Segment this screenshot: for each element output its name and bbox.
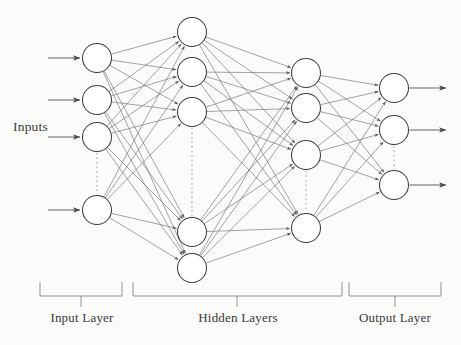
connection-edge: [109, 41, 179, 91]
connection-edge: [202, 43, 295, 143]
connection-edge: [201, 121, 297, 256]
input-layer-label: Input Layer: [40, 310, 124, 326]
connection-edge: [318, 98, 381, 146]
connection-edge: [206, 117, 291, 149]
connection-edge: [203, 166, 295, 257]
connection-edge: [206, 77, 290, 104]
neuron-node-hidden-1-2: [178, 58, 207, 87]
hidden-layers-label: Hidden Layers: [133, 310, 343, 326]
bracket-hidden-layers: [133, 282, 342, 296]
neuron-node-input-3: [83, 123, 112, 152]
neuron-node-input-2: [83, 86, 112, 115]
connection-edge: [108, 148, 181, 221]
connection-edge: [201, 86, 297, 220]
connection-edge: [104, 71, 184, 218]
connection-edge: [206, 233, 291, 263]
neuron-node-hidden-1-4: [178, 218, 207, 247]
connection-edge: [110, 218, 179, 260]
connection-edge: [107, 123, 180, 199]
ellipsis-group: [97, 128, 394, 216]
neuron-node-hidden-2-3: [292, 141, 321, 170]
connection-edge: [112, 60, 176, 69]
connection-edge: [112, 213, 177, 228]
connection-edge: [112, 116, 177, 133]
bracket-output-layer: [349, 282, 441, 296]
connection-edge: [319, 192, 379, 221]
bracket-input-layer: [40, 282, 122, 296]
connection-edge: [320, 160, 379, 180]
neuron-node-hidden-1-5: [178, 254, 207, 283]
neuron-node-input-4: [83, 196, 112, 225]
connection-edge: [111, 36, 176, 54]
connection-edge: [321, 92, 379, 105]
node-group: [83, 18, 409, 283]
neuron-node-hidden-1-1: [178, 18, 207, 47]
network-graphic: [0, 0, 461, 345]
neuron-node-hidden-1-3: [178, 98, 207, 127]
output-layer-label: Output Layer: [349, 310, 441, 326]
connection-edge: [106, 112, 183, 219]
connection-edge: [207, 72, 290, 73]
connection-edge: [314, 102, 386, 216]
connection-edge: [202, 120, 295, 221]
neuron-node-output-3: [380, 171, 409, 200]
neuron-node-hidden-2-1: [292, 59, 321, 88]
connection-edge: [204, 40, 292, 99]
bracket-group: [40, 282, 441, 307]
connection-edge: [317, 118, 382, 175]
inputs-label: Inputs: [13, 119, 48, 135]
neuron-node-output-2: [380, 116, 409, 145]
neural-network-diagram: Inputs Input Layer Hidden Layers Output …: [0, 0, 461, 345]
neuron-node-hidden-2-4: [292, 214, 321, 243]
connection-edge: [206, 78, 291, 107]
neuron-node-output-1: [380, 74, 409, 103]
neuron-node-input-1: [83, 44, 112, 73]
connection-edge: [204, 164, 292, 224]
connection-edge: [320, 134, 378, 151]
connection-edge: [321, 112, 379, 126]
connection-edge: [104, 113, 184, 254]
connection-edge: [316, 142, 383, 217]
connection-edge: [206, 37, 291, 68]
connection-edge: [321, 76, 378, 86]
neuron-node-hidden-2-2: [292, 94, 321, 123]
edge-group: [103, 36, 385, 263]
